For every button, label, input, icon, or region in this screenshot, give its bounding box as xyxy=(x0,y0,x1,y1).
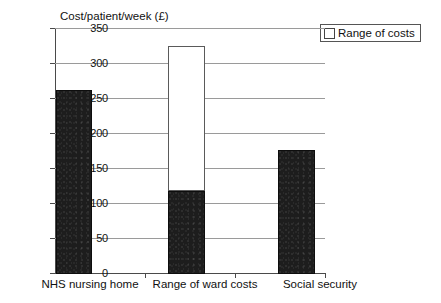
bar-range-of-ward-costs-open xyxy=(168,46,205,192)
y-tick-250 xyxy=(50,98,55,99)
x-label-range-of-ward-costs: Range of ward costs xyxy=(140,278,270,290)
y-label-50: 50 xyxy=(74,233,108,244)
y-label-100: 100 xyxy=(74,198,108,209)
y-label-250: 250 xyxy=(74,93,108,104)
y-tick-350 xyxy=(50,28,55,29)
bar-nhs-nursing-home xyxy=(56,90,92,274)
x-axis-labels: NHS nursing home Range of ward costs Soc… xyxy=(20,278,420,296)
y-label-350: 350 xyxy=(74,23,108,34)
bar-range-of-ward-costs-filled xyxy=(168,191,205,274)
bar-chart: Cost/patient/week (£) Range of costs 350… xyxy=(0,0,441,303)
y-tick-200 xyxy=(50,133,55,134)
chart-legend: Range of costs xyxy=(320,24,421,42)
y-label-150: 150 xyxy=(74,163,108,174)
y-label-300: 300 xyxy=(74,58,108,69)
y-axis-title: Cost/patient/week (£) xyxy=(60,10,169,22)
legend-swatch-range-of-costs xyxy=(324,28,335,39)
legend-label-range-of-costs: Range of costs xyxy=(338,27,415,39)
y-tick-0 xyxy=(50,273,55,274)
bar-social-security xyxy=(278,150,315,274)
y-label-200: 200 xyxy=(74,128,108,139)
x-label-social-security: Social security xyxy=(260,278,380,290)
y-tick-50 xyxy=(50,238,55,239)
y-tick-100 xyxy=(50,203,55,204)
x-label-nhs-nursing-home: NHS nursing home xyxy=(30,278,150,290)
y-tick-300 xyxy=(50,63,55,64)
y-tick-150 xyxy=(50,168,55,169)
